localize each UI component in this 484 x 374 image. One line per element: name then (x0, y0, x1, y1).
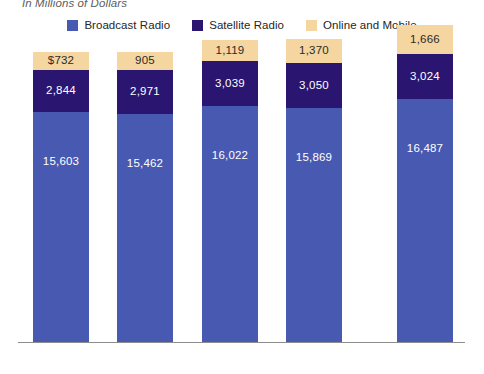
bar-value-broadcast-radio-2015: 15,869 (296, 152, 332, 164)
bar-segment-online-and-mobile-2012[interactable]: $732 (33, 52, 89, 70)
chart-page: In Millions of Dollars Broadcast Radio S… (0, 0, 484, 374)
bar-value-online-and-mobile-2012: $732 (48, 55, 74, 67)
bar-segment-broadcast-radio-2016[interactable]: 16,487 (397, 99, 453, 342)
stacked-bar-2015[interactable]: 1,370 3,050 15,869 (286, 39, 342, 342)
x-axis-line (18, 342, 465, 343)
bar-segment-satellite-radio-2013[interactable]: 2,971 (117, 70, 173, 114)
bar-value-broadcast-radio-2014: 16,022 (212, 150, 248, 162)
bar-segment-broadcast-radio-2015[interactable]: 15,869 (286, 108, 342, 342)
bar-segment-broadcast-radio-2013[interactable]: 15,462 (117, 114, 173, 342)
bar-value-online-and-mobile-2015: 1,370 (299, 45, 329, 57)
bar-segment-broadcast-radio-2014[interactable]: 16,022 (202, 106, 258, 342)
plot-area: $732 2,844 15,603 2012 905 2,971 (0, 0, 484, 374)
bar-value-satellite-radio-2016: 3,024 (410, 71, 440, 83)
bar-value-satellite-radio-2013: 2,971 (130, 86, 160, 98)
bar-segment-satellite-radio-2015[interactable]: 3,050 (286, 63, 342, 108)
stacked-bar-2014[interactable]: 1,119 3,039 16,022 (202, 40, 258, 342)
bar-segment-broadcast-radio-2012[interactable]: 15,603 (33, 112, 89, 342)
bar-segment-online-and-mobile-2015[interactable]: 1,370 (286, 39, 342, 63)
bar-segment-satellite-radio-2012[interactable]: 2,844 (33, 70, 89, 112)
bar-value-online-and-mobile-2016: 1,666 (410, 34, 440, 46)
stacked-bar-2013[interactable]: 905 2,971 15,462 (117, 52, 173, 342)
bar-segment-online-and-mobile-2014[interactable]: 1,119 (202, 40, 258, 61)
bar-value-broadcast-radio-2012: 15,603 (43, 156, 79, 168)
bar-value-satellite-radio-2012: 2,844 (46, 85, 76, 97)
bar-value-online-and-mobile-2013: 905 (135, 55, 155, 67)
stacked-bar-2012[interactable]: $732 2,844 15,603 (33, 52, 89, 342)
bar-value-broadcast-radio-2013: 15,462 (127, 158, 163, 170)
bar-segment-online-and-mobile-2016[interactable]: 1,666 (397, 25, 453, 54)
bar-segment-online-and-mobile-2013[interactable]: 905 (117, 52, 173, 70)
bar-value-satellite-radio-2015: 3,050 (299, 80, 329, 92)
bar-value-satellite-radio-2014: 3,039 (215, 78, 245, 90)
bar-segment-satellite-radio-2016[interactable]: 3,024 (397, 54, 453, 99)
bar-value-broadcast-radio-2016: 16,487 (407, 143, 443, 155)
bar-value-online-and-mobile-2014: 1,119 (216, 45, 245, 57)
bar-segment-satellite-radio-2014[interactable]: 3,039 (202, 61, 258, 106)
stacked-bar-2016[interactable]: 1,666 3,024 16,487 (397, 25, 453, 342)
